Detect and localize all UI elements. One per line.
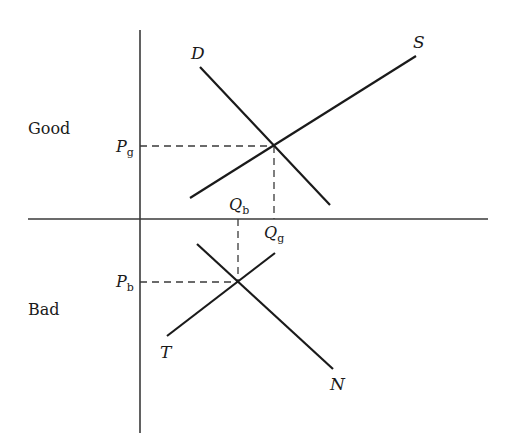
quantity-label-bad: Qb [229,195,249,217]
label-D: D [190,43,205,63]
quantity-label-good: Qg [264,223,284,245]
price-label-good: Pg [115,137,134,159]
demand-curve-good [200,67,330,205]
label-T: T [160,342,173,362]
demand-curve-bad [197,244,333,369]
label-S: S [413,32,425,52]
market-label-bad: Bad [28,300,60,319]
price-label-bad: Pb [115,272,134,294]
two-market-diagram: D S T N Good Bad Pg Pb Qb Qg [0,0,510,447]
market-label-good: Good [28,119,70,138]
label-N: N [329,374,346,394]
